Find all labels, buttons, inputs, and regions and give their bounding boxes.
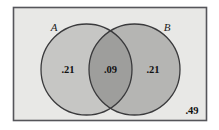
probability-outside: .49 <box>185 105 198 116</box>
venn-diagram-figure: A B .21 .09 .21 .49 <box>0 0 219 130</box>
probability-a-only: .21 <box>61 64 74 75</box>
set-label-a: A <box>50 21 58 33</box>
venn-diagram-canvas: A B .21 .09 .21 .49 <box>0 0 219 130</box>
probability-intersection: .09 <box>104 64 117 75</box>
probability-b-only: .21 <box>146 64 159 75</box>
set-label-b: B <box>164 21 171 33</box>
